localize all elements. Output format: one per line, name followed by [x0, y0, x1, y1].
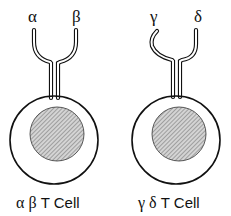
t-cell-diagram: α β γ δ: [0, 0, 231, 216]
nucleus: [30, 107, 84, 161]
gamma-delta-greek: γ δ: [138, 194, 157, 211]
nucleus: [152, 107, 206, 161]
t-cell-text: T Cell: [161, 194, 200, 211]
beta-chain-label: β: [72, 7, 81, 26]
gamma-chain-label: γ: [149, 7, 158, 26]
delta-chain-label: δ: [194, 7, 202, 26]
alpha-beta-t-cell-label: α β T Cell: [16, 194, 80, 212]
alpha-chain-label: α: [28, 7, 37, 26]
t-cell-text: T Cell: [41, 194, 80, 211]
gamma-delta-t-cell-label: γ δ T Cell: [138, 194, 200, 212]
alpha-beta-greek: α β: [16, 194, 37, 211]
gamma-delta-cell: γ δ: [132, 7, 220, 184]
alpha-beta-receptor: [34, 30, 76, 98]
alpha-beta-cell: α β: [10, 7, 98, 184]
